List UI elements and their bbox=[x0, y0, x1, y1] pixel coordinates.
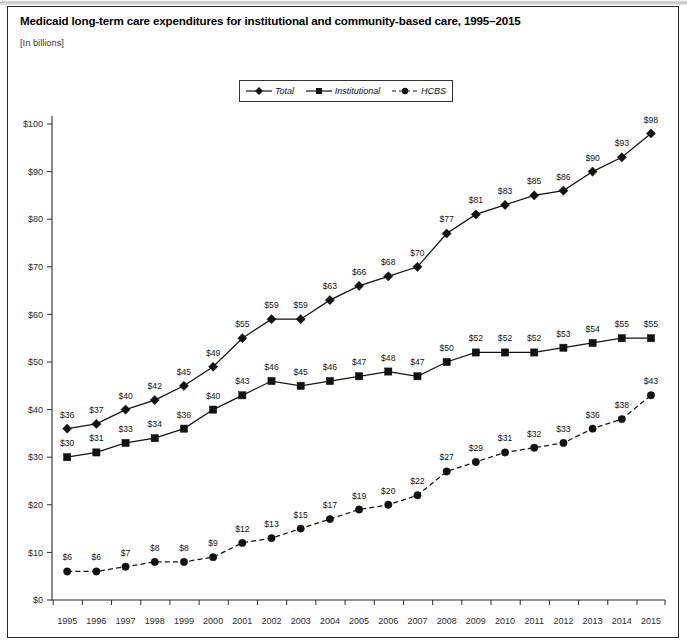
chart-legend: Total Institutional HCBS bbox=[239, 80, 453, 102]
chart-units-subtitle: [In billions] bbox=[20, 38, 64, 48]
legend-label-hcbs: HCBS bbox=[421, 87, 446, 96]
page-title: Medicaid long-term care expenditures for… bbox=[20, 14, 660, 27]
legend-item-total[interactable]: Total bbox=[246, 86, 294, 96]
legend-item-institutional[interactable]: Institutional bbox=[306, 86, 381, 96]
circle-marker-dashed-icon bbox=[392, 86, 418, 96]
legend-label-total: Total bbox=[275, 87, 294, 96]
square-marker-icon bbox=[306, 86, 332, 96]
legend-item-hcbs[interactable]: HCBS bbox=[392, 86, 446, 96]
diamond-marker-icon bbox=[246, 86, 272, 96]
figure-header-strip bbox=[0, 0, 687, 5]
legend-label-institutional: Institutional bbox=[335, 87, 381, 96]
